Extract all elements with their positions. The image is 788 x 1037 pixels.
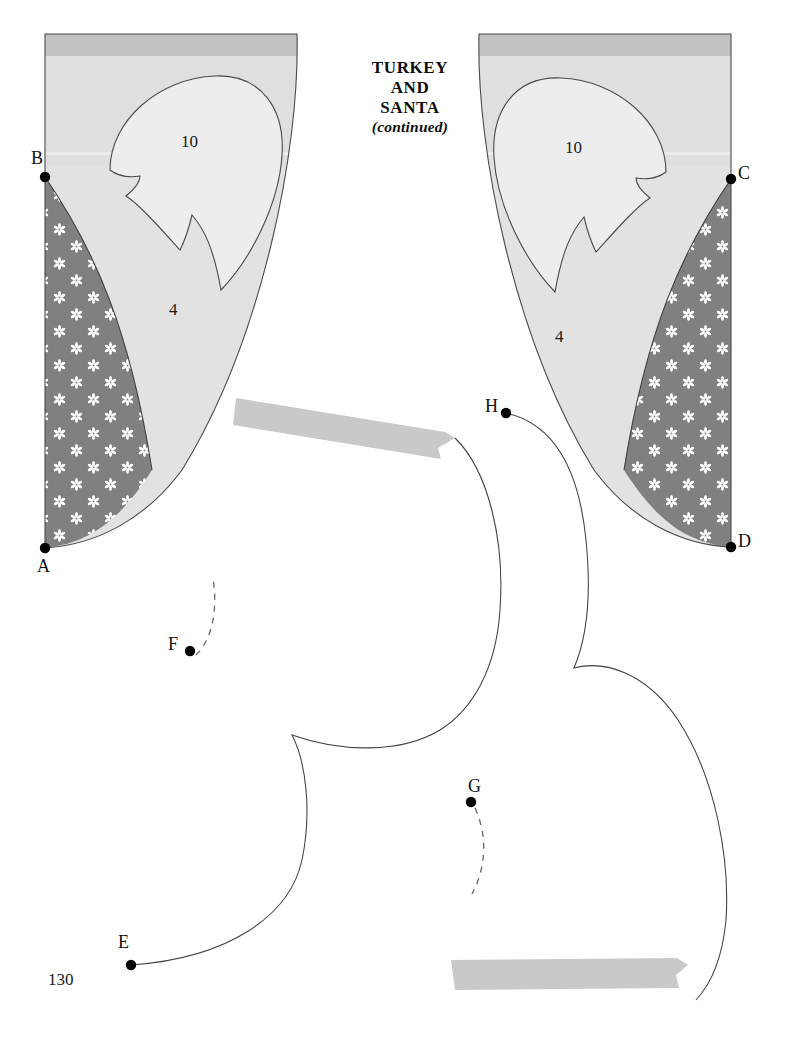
piece-number-left-4: 4 bbox=[169, 300, 178, 320]
marker-dot-a bbox=[40, 543, 50, 553]
page-number: 130 bbox=[48, 970, 74, 990]
title-line-3: SANTA bbox=[330, 98, 490, 118]
pattern-piece-right-wing bbox=[466, 30, 736, 555]
title-line-1: TURKEY bbox=[330, 58, 490, 78]
marker-dot-b bbox=[40, 172, 50, 182]
marker-dot-e bbox=[126, 960, 136, 970]
marker-label-h: H bbox=[485, 396, 498, 417]
pattern-piece-left-wing bbox=[40, 30, 310, 555]
marker-label-c: C bbox=[738, 163, 750, 184]
pattern-page: TURKEY AND SANTA (continued) B A C D E F… bbox=[0, 0, 788, 1037]
ribbon-upper bbox=[233, 398, 455, 459]
title-line-2: AND bbox=[330, 78, 490, 98]
dash-guide-g bbox=[472, 808, 484, 894]
marker-label-d: D bbox=[738, 531, 751, 552]
marker-dot-c bbox=[726, 174, 736, 184]
marker-label-a: A bbox=[37, 556, 50, 577]
marker-dot-h bbox=[501, 408, 511, 418]
ribbon-lower bbox=[451, 958, 688, 990]
marker-label-f: F bbox=[168, 634, 178, 655]
marker-dot-f bbox=[185, 646, 195, 656]
marker-label-g: G bbox=[468, 776, 481, 797]
page-title: TURKEY AND SANTA (continued) bbox=[330, 58, 490, 136]
marker-dot-d bbox=[726, 542, 736, 552]
title-continued: (continued) bbox=[330, 118, 490, 136]
marker-dot-g bbox=[466, 797, 476, 807]
lower-body-left-edge bbox=[131, 438, 501, 965]
marker-label-b: B bbox=[31, 148, 43, 169]
pattern-artboard bbox=[0, 0, 788, 1037]
marker-label-e: E bbox=[118, 932, 129, 953]
piece-number-right-10: 10 bbox=[565, 138, 582, 158]
dash-guide-f bbox=[196, 578, 215, 655]
piece-number-left-10: 10 bbox=[181, 132, 198, 152]
piece-number-right-4: 4 bbox=[555, 327, 564, 347]
